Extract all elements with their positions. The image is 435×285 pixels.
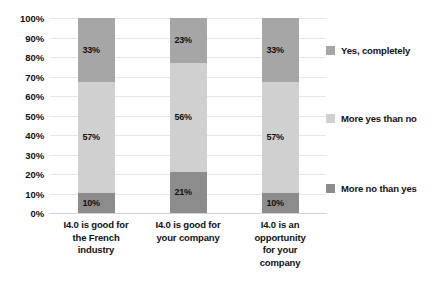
y-axis-tick-label: 80% [25,52,44,63]
y-axis-tick-label: 40% [25,130,44,141]
y-axis-tick-label: 90% [25,32,44,43]
bar-segment-value-label: 33% [262,46,284,55]
y-axis-tick-label: 20% [25,169,44,180]
category-label-line: I4.0 is good for [49,219,143,232]
category-label-line: company [233,257,327,270]
bar-segment[interactable]: 21% [170,172,207,213]
bar-segment-value-label: 10% [78,199,100,208]
bar-segment[interactable]: 10% [262,193,299,213]
category-label-line: opportunity [233,232,327,245]
stacked-bar[interactable]: 33%57%10% [78,18,115,213]
stacked-bar[interactable]: 33%57%10% [262,18,299,213]
bar-segment[interactable]: 33% [78,18,115,82]
stacked-bar-chart: 100%90%80%70%60%50%40%30%20%10%0% 33%57%… [0,0,435,285]
legend-label: More yes than no [341,113,417,124]
y-axis-tick-label: 10% [25,188,44,199]
legend-item[interactable]: Yes, completely [326,45,410,56]
legend-color-swatch [326,184,335,193]
category-label-line: your company [141,232,235,245]
chart-legend: Yes, completelyMore yes than noMore no t… [326,0,435,285]
legend-color-swatch [326,114,335,123]
bar-segment-value-label: 23% [170,36,192,45]
legend-label: Yes, completely [341,45,410,56]
bar-segment-value-label: 10% [262,199,284,208]
axis-baseline [50,213,326,214]
bar-segment[interactable]: 56% [170,63,207,172]
bar-segment[interactable]: 23% [170,18,207,63]
category-label: I4.0 is anopportunityfor yourcompany [233,219,327,269]
category-label: I4.0 is good forthe Frenchindustry [49,219,143,257]
legend-item[interactable]: More yes than no [326,113,417,124]
y-axis-tick-label: 50% [25,110,44,121]
y-axis: 100%90%80%70%60%50%40%30%20%10%0% [0,0,48,285]
category-axis-labels: I4.0 is good forthe FrenchindustryI4.0 i… [50,219,326,281]
bar-segment-value-label: 33% [78,46,100,55]
legend-item[interactable]: More no than yes [326,183,417,194]
legend-color-swatch [326,46,335,55]
bar-segment-value-label: 57% [262,133,284,142]
category-label-line: the French [49,232,143,245]
plot-area: 33%57%10%23%56%21%33%57%10% [50,18,326,213]
y-axis-tick-label: 30% [25,149,44,160]
legend-label: More no than yes [341,183,417,194]
category-label-line: for your [233,244,327,257]
category-label-line: I4.0 is an [233,219,327,232]
category-label-line: I4.0 is good for [141,219,235,232]
y-axis-tick-label: 60% [25,91,44,102]
bar-segment-value-label: 56% [170,113,192,122]
bar-segment[interactable]: 57% [262,82,299,193]
y-axis-tick-label: 0% [30,208,44,219]
bar-segment[interactable]: 33% [262,18,299,82]
bar-segment[interactable]: 10% [78,193,115,213]
category-label-line: industry [49,244,143,257]
bar-segment-value-label: 57% [78,133,100,142]
bar-segment-value-label: 21% [170,188,192,197]
category-label: I4.0 is good foryour company [141,219,235,244]
y-axis-tick-label: 100% [20,13,44,24]
stacked-bar[interactable]: 23%56%21% [170,18,207,213]
y-axis-tick-label: 70% [25,71,44,82]
bar-segment[interactable]: 57% [78,82,115,193]
